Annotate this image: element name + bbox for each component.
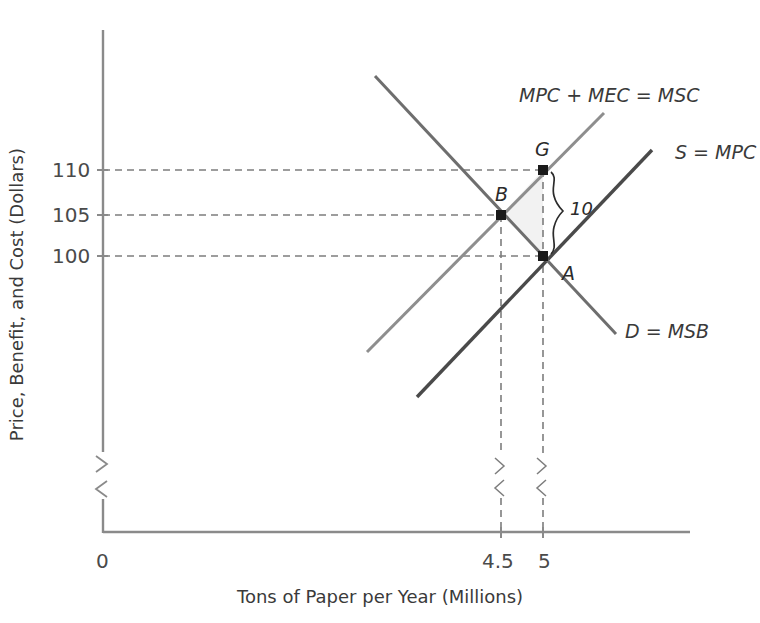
brace-label-external-cost: 10 — [570, 198, 593, 219]
x-axis-title: Tons of Paper per Year (Millions) — [237, 586, 523, 607]
point-label-a: A — [562, 262, 575, 284]
x-tick-label-45: 4.5 — [482, 549, 514, 573]
marker-point-b — [496, 210, 506, 220]
y-tick-label-105: 105 — [52, 203, 90, 227]
y-tick-label-110: 110 — [52, 158, 90, 182]
curve-msc — [367, 113, 604, 352]
x-tick-label-5: 5 — [538, 549, 551, 573]
marker-point-g — [538, 165, 548, 175]
axis-break-q5 — [537, 458, 546, 496]
curve-label-demand: D = MSB — [625, 320, 709, 342]
y-axis-title: Price, Benefit, and Cost (Dollars) — [6, 148, 27, 441]
marker-point-a — [538, 251, 548, 261]
externality-chart-figure: Price, Benefit, and Cost (Dollars) Tons … — [0, 0, 760, 623]
x-tick-label-0: 0 — [96, 549, 109, 573]
point-label-b: B — [495, 183, 508, 205]
brace-marginal-external-cost — [551, 172, 563, 254]
axis-break-y — [96, 456, 107, 497]
axis-break-q45 — [495, 458, 504, 496]
curve-label-supply: S = MPC — [675, 141, 756, 163]
curve-label-msc: MPC + MEC = MSC — [519, 84, 700, 106]
point-label-g: G — [535, 138, 550, 160]
y-tick-label-100: 100 — [52, 244, 90, 268]
